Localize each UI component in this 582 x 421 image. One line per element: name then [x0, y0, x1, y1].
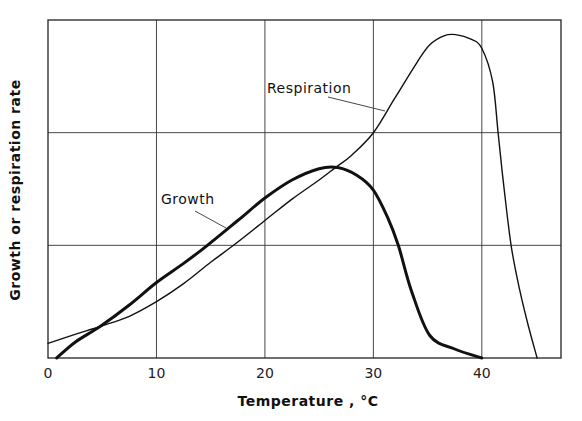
x-tick-label: 10: [148, 365, 166, 381]
x-tick-label: 40: [473, 365, 491, 381]
chart: 010203040 Respiration Growth Temperature…: [0, 0, 582, 421]
x-tick-labels: 010203040: [44, 365, 491, 381]
x-tick-label: 0: [44, 365, 53, 381]
growth-curve: [57, 167, 482, 358]
growth-label: Growth: [161, 191, 215, 207]
respiration-leader-line: [328, 97, 385, 111]
x-tick-label: 20: [256, 365, 274, 381]
x-axis-label: Temperature , °C: [237, 393, 378, 409]
respiration-label: Respiration: [267, 80, 351, 96]
y-axis-label: Growth or respiration rate: [7, 79, 23, 300]
growth-leader-line: [195, 211, 226, 228]
x-tick-label: 30: [364, 365, 382, 381]
